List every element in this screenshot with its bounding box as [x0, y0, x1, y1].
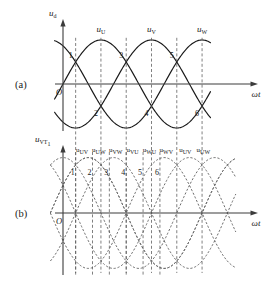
line-voltage-label-4: uVU	[126, 146, 139, 155]
panel-a-x-axis-arrow	[251, 81, 259, 86]
line-voltage-label-6: uWV	[160, 146, 174, 155]
panel-b-label: (b)	[15, 208, 28, 220]
curve-label-u-w: uW	[197, 24, 208, 35]
panel-b: uVT1 ωt O (b) uUVuUWuVWuVUuWUuWVuUVuUW 1…	[15, 134, 261, 275]
number-b-3: 3	[104, 168, 108, 177]
panel-a-y-axis-label: ud	[49, 8, 57, 19]
panel-b-x-axis-arrow	[251, 210, 259, 215]
panel-b-line-voltage-labels: uUVuUWuVWuVUuWUuWVuUVuUW	[76, 146, 211, 155]
waveform-figure: ud ωt O (a) uUuVuW 123456 uVT1 ωt O	[0, 0, 279, 293]
panel-b-y-axis-arrow	[60, 145, 65, 153]
panel-a-label: (a)	[15, 79, 27, 91]
panel-b-origin-label: O	[56, 216, 62, 226]
number-b-5: 5	[138, 168, 142, 177]
intersection-number-a-6: 6	[195, 109, 199, 118]
panel-a-y-axis-arrow	[60, 19, 65, 27]
intersection-number-a-1: 1	[69, 51, 73, 60]
panel-a-origin-label: O	[56, 87, 62, 97]
line-voltage-label-8: uUW	[197, 146, 211, 155]
number-b-2: 2	[88, 168, 92, 177]
intersection-number-a-3: 3	[119, 51, 123, 60]
line-voltage-label-2: uUW	[92, 146, 106, 155]
line-voltage-label-3: uVW	[109, 146, 123, 155]
curve-label-u-v: uV	[147, 24, 157, 35]
panel-a-x-axis-label: ωt	[252, 89, 261, 99]
line-voltage-label-1: uUV	[76, 146, 89, 155]
intersection-number-a-4: 4	[145, 109, 149, 118]
panel-b-x-axis-label: ωt	[252, 218, 261, 228]
number-b-1: 1	[71, 168, 75, 177]
panel-a-curve-labels: uUuVuW	[97, 24, 208, 35]
intersection-number-a-5: 5	[170, 51, 174, 60]
number-b-6: 6	[155, 168, 159, 177]
line-voltage-label-7: uUV	[179, 146, 192, 155]
intersection-number-a-2: 2	[94, 109, 98, 118]
number-b-4: 4	[121, 168, 125, 177]
line-voltage-label-5: uWU	[143, 146, 157, 155]
panel-a: ud ωt O (a) uUuVuW 123456	[15, 8, 261, 273]
curve-label-u-u: uU	[97, 24, 107, 35]
panel-b-y-axis-label: uVT1	[35, 134, 51, 147]
figure-svg: ud ωt O (a) uUuVuW 123456 uVT1 ωt O	[0, 0, 279, 293]
